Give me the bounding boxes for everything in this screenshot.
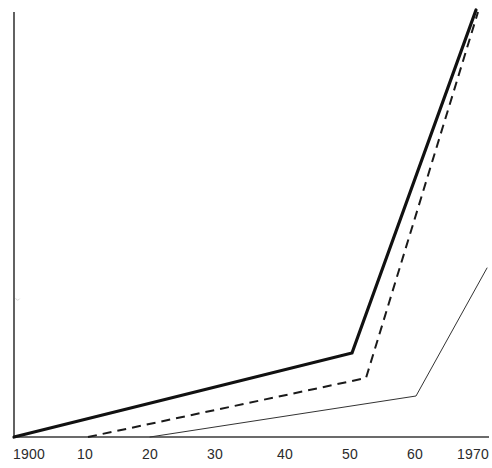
x-tick-label-1960: 60 (407, 446, 423, 462)
x-tick-label-1940: 40 (277, 446, 293, 462)
scan-speck (16, 298, 20, 300)
x-tick-label-1970: 1970 (457, 446, 489, 462)
series-thin-curve (150, 268, 487, 437)
x-tick-label-1900: 1900 (13, 446, 45, 462)
chart-plot-area (0, 0, 492, 468)
x-tick-label-1910: 10 (77, 446, 93, 462)
axes-group (14, 12, 489, 437)
series-dashed-curve (88, 12, 478, 437)
chart-figure: 1900 10 20 30 40 50 60 1970 (0, 0, 492, 468)
series-bold-curve (14, 10, 476, 437)
x-tick-label-1950: 50 (342, 446, 358, 462)
x-tick-label-1920: 20 (142, 446, 158, 462)
x-tick-label-1930: 30 (207, 446, 223, 462)
data-series-group (14, 10, 487, 437)
